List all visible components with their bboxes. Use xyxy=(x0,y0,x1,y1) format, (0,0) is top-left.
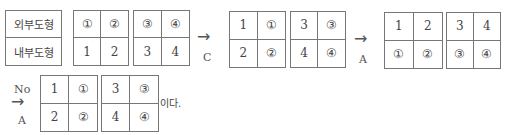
grid-cell: 3 xyxy=(291,12,318,40)
grid-cell: 1 xyxy=(230,12,258,40)
grid-8: 3 ③ 4 ④ xyxy=(101,75,159,132)
grid-cell: 2 xyxy=(230,40,258,68)
grid-cell: 4 xyxy=(474,13,501,41)
grid-6: 3 4 ③ ④ xyxy=(446,12,501,69)
grid-cell: 3 xyxy=(134,38,162,65)
grid-cell: ③ xyxy=(134,11,162,38)
inner-shape-label: 내부도형 xyxy=(6,38,61,65)
grid-cell: ② xyxy=(69,104,97,132)
grid-7: 1 ① 2 ② xyxy=(40,75,98,132)
grid-1: ① ② 1 2 xyxy=(73,10,129,66)
label-box: 외부도형 내부도형 xyxy=(5,10,62,66)
grid-cell: ① xyxy=(69,76,97,104)
grid-cell: ① xyxy=(74,11,101,38)
grid-cell: ① xyxy=(258,12,286,40)
operation-label-a: A xyxy=(18,115,26,126)
grid-cell: 4 xyxy=(162,38,190,65)
grid-cell: ③ xyxy=(447,41,474,69)
grid-cell: 2 xyxy=(414,13,443,41)
grid-cell: 2 xyxy=(101,38,128,65)
grid-cell: 3 xyxy=(447,13,474,41)
grid-cell: ③ xyxy=(318,12,345,40)
grid-cell: ② xyxy=(414,41,443,69)
grid-cell: 1 xyxy=(385,13,414,41)
grid-3: 1 ① 2 ② xyxy=(229,11,286,68)
outer-shape-label: 외부도형 xyxy=(6,11,61,38)
grid-cell: ③ xyxy=(130,76,158,104)
grid-4: 3 ③ 4 ④ xyxy=(290,11,346,68)
grid-cell: 3 xyxy=(102,76,130,104)
grid-cell: 4 xyxy=(102,104,130,132)
grid-cell: ② xyxy=(258,40,286,68)
grid-5: 1 2 ① ② xyxy=(384,12,443,69)
arrow-right-icon: → xyxy=(197,29,210,45)
grid-cell: ② xyxy=(101,11,128,38)
grid-cell: ④ xyxy=(474,41,501,69)
grid-cell: 1 xyxy=(41,76,69,104)
grid-cell: ④ xyxy=(130,104,158,132)
grid-cell: 2 xyxy=(41,104,69,132)
grid-cell: ④ xyxy=(318,40,345,68)
sentence-ending: 이다. xyxy=(160,99,181,109)
grid-cell: 4 xyxy=(291,40,318,68)
grid-cell: ① xyxy=(385,41,414,69)
operation-label-c: C xyxy=(203,52,211,63)
operation-label-a: A xyxy=(359,54,367,65)
grid-cell: 1 xyxy=(74,38,101,65)
grid-cell: ④ xyxy=(162,11,190,38)
arrow-right-icon: → xyxy=(11,94,24,110)
grid-2: ③ ④ 3 4 xyxy=(133,10,190,66)
arrow-right-icon: → xyxy=(354,31,367,47)
